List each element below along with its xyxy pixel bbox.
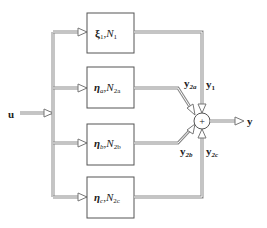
block-1: ξ1,N1 — [87, 13, 134, 53]
block-2c: ηc,N2c — [87, 177, 134, 218]
branch-arrows — [53, 28, 87, 201]
input-label: u — [8, 108, 14, 120]
signal-label-y2b: y2b — [180, 145, 193, 159]
output-label: y — [247, 115, 253, 127]
input-arrow — [20, 109, 53, 117]
signal-label-y2a: y2a — [184, 77, 197, 91]
block-diagram: u — [0, 0, 267, 228]
summing-junction: + — [194, 113, 210, 129]
block-2b: ηb,N2b — [87, 124, 134, 165]
block-2a: ηa,N2a — [87, 67, 134, 108]
plus-icon: + — [199, 116, 205, 127]
signal-label-y1: y1 — [206, 78, 216, 92]
output-paths — [134, 32, 206, 197]
output-arrow — [210, 117, 244, 125]
signal-label-y2c: y2c — [206, 145, 218, 159]
